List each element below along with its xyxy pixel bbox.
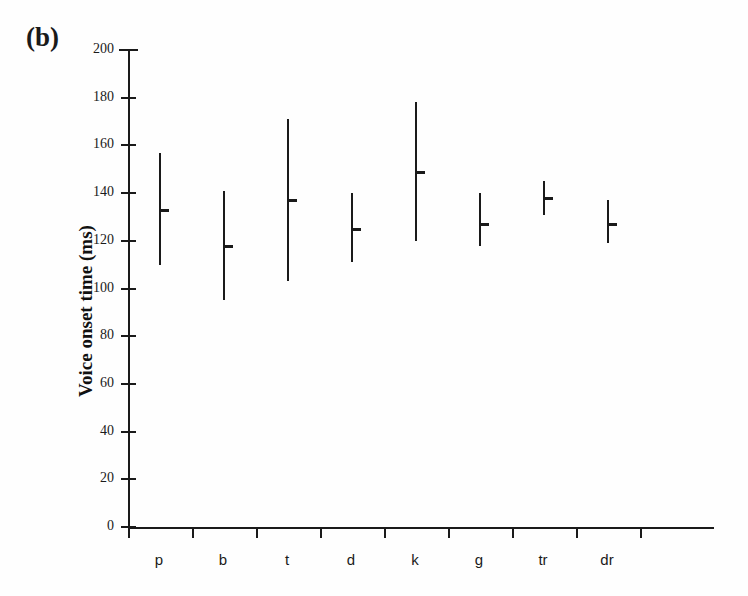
x-axis-tick <box>640 527 642 538</box>
x-axis-label-d: d <box>321 551 381 568</box>
range-bar-g <box>479 193 481 245</box>
y-axis-tick <box>121 288 136 290</box>
x-axis-tick <box>512 527 514 538</box>
y-axis-tick <box>119 49 138 51</box>
x-axis-tick <box>576 527 578 538</box>
x-axis-tick <box>320 527 322 538</box>
y-axis-tick-value: 140 <box>74 184 114 200</box>
mean-marker-dr <box>607 223 617 226</box>
mean-marker-t <box>287 199 297 202</box>
range-bar-dr <box>607 200 609 243</box>
y-axis-tick <box>121 97 136 99</box>
y-axis-tick <box>121 192 136 194</box>
mean-marker-p <box>159 209 169 212</box>
x-axis-tick <box>448 527 450 538</box>
mean-marker-k <box>415 171 425 174</box>
x-axis-label-k: k <box>385 551 445 568</box>
y-axis-tick-value: 120 <box>74 232 114 248</box>
y-axis-tick-value: 40 <box>74 423 114 439</box>
y-axis-tick-value: 160 <box>74 136 114 152</box>
y-axis-tick-value: 60 <box>74 375 114 391</box>
x-axis-label-b: b <box>193 551 253 568</box>
x-axis-label-g: g <box>449 551 509 568</box>
x-axis-tick <box>192 527 194 538</box>
x-axis-line <box>128 527 714 529</box>
y-axis-tick <box>121 431 136 433</box>
y-axis-tick-value: 80 <box>74 327 114 343</box>
y-axis-tick <box>121 144 136 146</box>
y-axis-tick-value: 200 <box>74 41 114 57</box>
y-axis-tick-value: 180 <box>74 89 114 105</box>
mean-marker-tr <box>543 197 553 200</box>
figure-root: (b) Voice onset time (ms) 02040608010012… <box>0 0 748 596</box>
mean-marker-g <box>479 223 489 226</box>
mean-marker-b <box>223 245 233 248</box>
x-axis-tick <box>256 527 258 538</box>
plot-area: 020406080100120140160180200 pbtdkgtrdr <box>0 0 748 596</box>
y-axis-tick <box>121 240 136 242</box>
y-axis-tick-value: 0 <box>74 518 114 534</box>
x-axis-label-p: p <box>129 551 189 568</box>
x-axis-label-tr: tr <box>513 551 573 568</box>
mean-marker-d <box>351 228 361 231</box>
y-axis-tick-value: 20 <box>74 470 114 486</box>
x-axis-tick <box>128 527 130 538</box>
y-axis-tick <box>121 478 136 480</box>
y-axis-tick <box>121 335 136 337</box>
x-axis-label-dr: dr <box>577 551 637 568</box>
x-axis-label-t: t <box>257 551 317 568</box>
y-axis-tick-value: 100 <box>74 280 114 296</box>
x-axis-tick <box>384 527 386 538</box>
y-axis-line <box>128 50 130 529</box>
y-axis-tick <box>121 383 136 385</box>
